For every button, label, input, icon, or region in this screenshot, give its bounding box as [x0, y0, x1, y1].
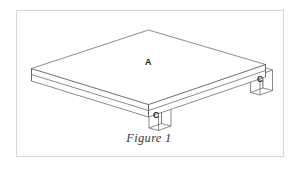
label-a: A	[145, 58, 152, 67]
label-c-front: C	[153, 111, 159, 120]
figure-container: A C C Figure 1	[0, 0, 298, 172]
slab-top-face	[32, 30, 266, 105]
isometric-slab-drawing	[0, 0, 298, 172]
label-c-right: C	[257, 75, 263, 84]
figure-caption: Figure 1	[0, 131, 298, 146]
